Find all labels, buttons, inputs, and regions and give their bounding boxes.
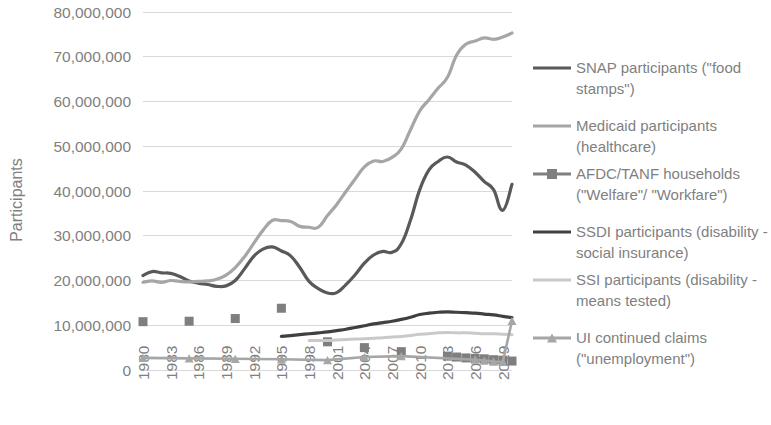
- legend-item-label: ("Welfare"/ "Workfare"): [576, 186, 728, 203]
- x-axis-tick-label: 2001: [329, 346, 346, 380]
- y-axis-tick-label: 60,000,000: [53, 93, 131, 110]
- y-axis-tick-label: 50,000,000: [53, 138, 131, 155]
- data-series: [139, 33, 517, 366]
- x-axis-tick-label: 1998: [301, 346, 318, 380]
- chart-container: 010,000,00020,000,00030,000,00040,000,00…: [0, 0, 771, 425]
- y-axis-tick-label: 30,000,000: [53, 227, 131, 244]
- participants-line-chart: 010,000,00020,000,00030,000,00040,000,00…: [0, 0, 771, 425]
- legend-item-label: social insurance): [576, 244, 689, 261]
- y-axis-tick-label: 10,000,000: [53, 317, 131, 334]
- x-axis-tick-label: 1980: [135, 345, 152, 380]
- chart-legend: SNAP participants ("foodstamps")Medicaid…: [533, 59, 768, 367]
- legend-item-2[interactable]: AFDC/TANF households("Welfare"/ "Workfar…: [533, 165, 740, 203]
- series-0: [143, 157, 512, 294]
- legend-item-label: stamps"): [576, 80, 635, 97]
- legend-item-label: SSI participants (disability -: [576, 271, 757, 288]
- series-4: [309, 332, 512, 340]
- legend-item-label: UI continued claims: [576, 329, 707, 346]
- y-axis-tick-labels: 010,000,00020,000,00030,000,00040,000,00…: [53, 4, 131, 379]
- legend-swatch-marker: [547, 169, 557, 179]
- legend-item-1[interactable]: Medicaid participants(healthcare): [533, 117, 717, 155]
- legend-item-label: SNAP participants ("food: [576, 59, 741, 76]
- legend-item-label: SSDI participants (disability -: [576, 223, 768, 240]
- x-axis-tick-labels: 1980198319861989199219951998200120042007…: [135, 345, 512, 380]
- x-axis-tick-label: 2013: [439, 346, 456, 380]
- gridlines: [143, 12, 512, 370]
- x-axis-tick-label: 1986: [190, 346, 207, 380]
- y-axis-tick-label: 20,000,000: [53, 272, 131, 289]
- legend-item-0[interactable]: SNAP participants ("foodstamps"): [533, 59, 741, 97]
- data-point-square-marker: [231, 314, 240, 323]
- legend-item-label: (healthcare): [576, 138, 656, 155]
- y-axis-tick-label: 70,000,000: [53, 48, 131, 65]
- data-point-square-marker: [508, 357, 517, 366]
- data-point-square-marker: [360, 343, 369, 352]
- legend-item-5[interactable]: UI continued claims("unemployment"): [533, 329, 707, 367]
- x-axis-tick-label: 1983: [163, 346, 180, 380]
- data-point-square-marker: [277, 304, 286, 313]
- series-line: [309, 332, 512, 340]
- legend-item-label: AFDC/TANF households: [576, 165, 740, 182]
- series-line: [143, 157, 512, 294]
- data-point-square-marker: [139, 317, 148, 326]
- data-point-square-marker: [185, 317, 194, 326]
- legend-item-label: means tested): [576, 292, 671, 309]
- legend-item-label: Medicaid participants: [576, 117, 717, 134]
- x-axis-tick-label: 2010: [412, 345, 429, 380]
- y-axis-tick-label: 40,000,000: [53, 183, 131, 200]
- series-1: [143, 33, 512, 282]
- x-axis-tick-label: 1992: [246, 346, 263, 380]
- y-axis-tick-label: 0: [122, 362, 131, 379]
- legend-item-3[interactable]: SSDI participants (disability -social in…: [533, 223, 768, 261]
- legend-item-label: ("unemployment"): [576, 350, 695, 367]
- y-axis-tick-label: 80,000,000: [53, 4, 131, 21]
- y-axis-title-label: Participants: [8, 158, 25, 242]
- legend-item-4[interactable]: SSI participants (disability -means test…: [533, 271, 757, 309]
- y-axis-title: Participants: [8, 158, 25, 242]
- series-line: [143, 33, 512, 282]
